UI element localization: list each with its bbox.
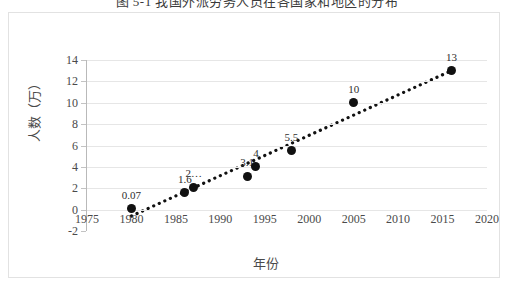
x-axis-tick-label: 1980 xyxy=(119,212,143,227)
plot-area: -202468101214197519801985199019952000200… xyxy=(87,60,487,231)
chart-frame: 人数（万） 年份 -202468101214197519801985199019… xyxy=(8,12,500,278)
y-axis-tick xyxy=(81,167,86,168)
y-axis-tick xyxy=(81,188,86,189)
gridline xyxy=(87,210,487,211)
y-axis-tick-label: 2 xyxy=(72,181,78,196)
y-axis-tick xyxy=(81,81,86,82)
y-axis-tick xyxy=(81,124,86,125)
gridline xyxy=(87,60,487,61)
x-axis-tick-label: 1995 xyxy=(253,212,277,227)
y-axis-tick xyxy=(81,103,86,104)
gridline xyxy=(87,188,487,189)
y-axis-tick-label: 4 xyxy=(72,159,78,174)
gridline xyxy=(87,81,487,82)
gridline xyxy=(87,103,487,104)
data-point-label: 4 xyxy=(253,147,259,159)
data-point-label: 13 xyxy=(446,51,457,63)
y-axis-tick xyxy=(81,60,86,61)
x-axis-tick-label: 1985 xyxy=(164,212,188,227)
y-axis-tick-label: 10 xyxy=(66,95,78,110)
data-point-label: 5.5 xyxy=(285,131,299,143)
y-axis-tick xyxy=(81,146,86,147)
x-axis-tick-label: 2020 xyxy=(475,212,499,227)
x-axis-tick-label: 1975 xyxy=(75,212,99,227)
y-axis-tick-label: 6 xyxy=(72,138,78,153)
x-axis-tick-label: 2015 xyxy=(431,212,455,227)
y-axis-title: 人数（万） xyxy=(24,77,43,142)
data-point-label: 10 xyxy=(348,83,359,95)
y-axis-tick xyxy=(81,231,86,232)
data-point-marker[interactable] xyxy=(189,183,198,192)
x-axis-title: 年份 xyxy=(9,253,514,272)
x-axis-tick-label: 2000 xyxy=(297,212,321,227)
x-axis-tick-label: 2005 xyxy=(342,212,366,227)
data-point-marker[interactable] xyxy=(243,172,252,181)
y-axis-tick-label: 14 xyxy=(66,53,78,68)
gridline xyxy=(87,146,487,147)
x-axis-tick-label: 1990 xyxy=(208,212,232,227)
gridline xyxy=(87,167,487,168)
figure-caption: 图 5-1 我国外派劳务人员在各国家和地区的分布 xyxy=(0,0,514,10)
data-point-label: 0.07 xyxy=(122,189,141,201)
y-axis-tick-label: 8 xyxy=(72,117,78,132)
gridline xyxy=(87,124,487,125)
y-axis-tick xyxy=(81,210,86,211)
x-axis-tick-label: 2010 xyxy=(386,212,410,227)
y-axis-tick-label: 12 xyxy=(66,74,78,89)
data-point-label: 2… xyxy=(185,167,202,179)
